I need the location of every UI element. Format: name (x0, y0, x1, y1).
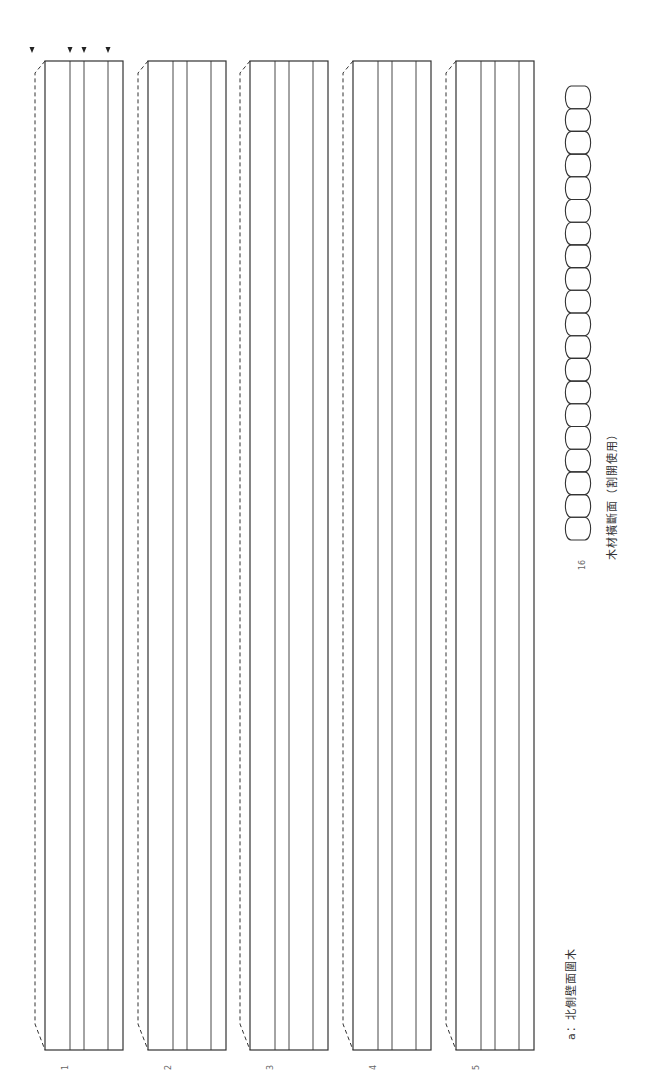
log-cross-section (565, 154, 590, 177)
section-number: 16 (578, 560, 587, 570)
log-cross-section (565, 472, 590, 495)
plank-3 (240, 61, 328, 1050)
plank-dashed-edge (35, 61, 45, 1050)
log-cross-section (565, 313, 590, 336)
log-cross-section (565, 495, 590, 518)
marker-triangle-icon (30, 47, 35, 53)
plank-1 (30, 47, 124, 1050)
plank-label-3: 3 (266, 1065, 275, 1070)
log-cross-section (565, 427, 590, 450)
planks-layer (30, 47, 535, 1050)
marker-triangle-icon (82, 47, 87, 53)
log-cross-section (565, 222, 590, 245)
log-cross-section (565, 86, 590, 109)
log-cross-section (565, 290, 590, 313)
plank-4 (343, 61, 431, 1050)
plank-dashed-edge (343, 61, 353, 1050)
log-cross-section (565, 200, 590, 223)
plank-label-5: 5 (472, 1065, 481, 1070)
plank-5 (446, 61, 534, 1050)
plank-dashed-edge (138, 61, 148, 1050)
log-cross-section (565, 404, 590, 427)
log-cross-section (565, 336, 590, 359)
log-cross-section-row (565, 86, 590, 540)
log-cross-section (565, 358, 590, 381)
plank-label-2: 2 (164, 1065, 173, 1070)
marker-triangle-icon (106, 47, 111, 53)
log-cross-section (565, 131, 590, 154)
log-cross-section (565, 381, 590, 404)
log-cross-section (565, 268, 590, 291)
plank-label-1: 1 (61, 1065, 70, 1070)
log-cross-section (565, 177, 590, 200)
log-cross-section (565, 517, 590, 540)
plank-2 (138, 61, 226, 1050)
plank-label-4: 4 (369, 1065, 378, 1070)
plank-drawing (0, 0, 658, 1073)
marker-triangle-icon (68, 47, 73, 53)
section-caption: 木材橫斷面（割開使用） (603, 428, 619, 560)
log-cross-section (565, 449, 590, 472)
log-cross-section (565, 109, 590, 132)
plank-dashed-edge (240, 61, 250, 1050)
log-cross-section (565, 245, 590, 268)
figure-caption: a：北側壁面圍木 (562, 948, 578, 1040)
plank-dashed-edge (446, 61, 456, 1050)
